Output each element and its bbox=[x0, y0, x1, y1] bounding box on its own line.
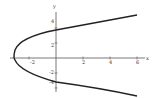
x-tick-label: -2 bbox=[30, 59, 35, 65]
parabola-chart: -2 2 4 6 x y 4 2 -2 -4 bbox=[0, 0, 158, 98]
x-tick-label: 4 bbox=[109, 59, 112, 65]
y-tick-label: -2 bbox=[49, 69, 54, 75]
x-tick-label: 6 bbox=[136, 59, 139, 65]
y-tick-label: -4 bbox=[49, 79, 54, 85]
parabola-curve bbox=[14, 15, 137, 96]
chart-canvas: -2 2 4 6 x y 4 2 -2 -4 bbox=[0, 0, 158, 98]
y-tick-label: 4 bbox=[51, 18, 54, 24]
x-axis-label: x bbox=[146, 55, 149, 61]
y-tick-label: 2 bbox=[51, 42, 54, 48]
y-axis-label: y bbox=[52, 3, 56, 10]
x-tick-label: 2 bbox=[82, 59, 85, 65]
